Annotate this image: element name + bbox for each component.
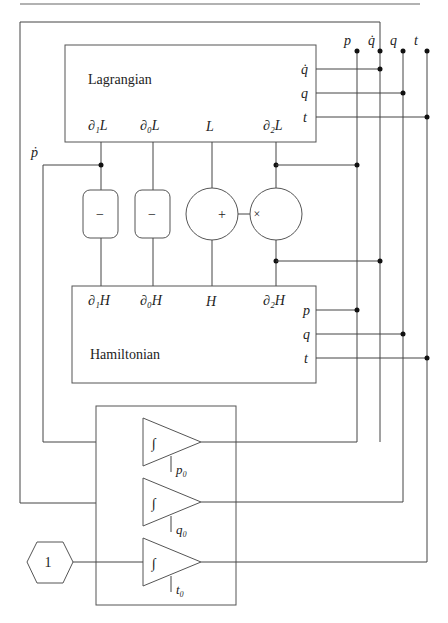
junction-dot: [401, 332, 406, 337]
hamiltonian-output-q: q: [303, 327, 310, 342]
lagrangian-output-d0L: ∂₀L: [140, 118, 160, 133]
hamiltonian-input-d0H: ∂₀H: [140, 293, 163, 308]
lagrangian-output-d2L: ∂₂L: [263, 118, 283, 133]
negate-symbol: −: [96, 207, 104, 222]
hamiltonian-output-p: p: [302, 303, 310, 318]
junction-dot: [355, 163, 360, 168]
junction-dot: [99, 163, 104, 168]
hamiltonian-input-d2H: ∂₂H: [263, 293, 286, 308]
lagrangian-output-d1L: ∂₁L: [88, 118, 108, 133]
hamiltonian-input-H: H: [205, 294, 217, 309]
bus-dot: [425, 49, 430, 54]
lagrangian-title: Lagrangian: [88, 72, 152, 87]
initial-p0: p₀: [175, 462, 187, 477]
bus-dot: [378, 49, 383, 54]
hamiltonian-lagrangian-diagram: Lagrangian q̇ q t ∂₁L ∂₀L L ∂₂L p q̇ q t…: [0, 0, 448, 623]
plus-symbol: +: [218, 207, 226, 222]
times-symbol: ×: [254, 207, 261, 221]
hamiltonian-title: Hamiltonian: [90, 347, 160, 362]
adder-block: [186, 188, 238, 240]
junction-dot: [378, 67, 383, 72]
lagrangian-output-L: L: [205, 119, 214, 134]
initial-t0: t₀: [176, 582, 184, 597]
junction-dot: [425, 356, 430, 361]
hamiltonian-input-d1H: ∂₁H: [88, 293, 111, 308]
constant-value: 1: [45, 555, 52, 570]
junction-dot: [355, 308, 360, 313]
bus-label-t: t: [414, 33, 419, 48]
bus-label-p: p: [343, 33, 351, 48]
pdot-label: ṗ: [30, 145, 38, 160]
junction-dot: [401, 91, 406, 96]
bus-dot: [355, 49, 360, 54]
bus-label-q: q: [390, 33, 397, 48]
lagrangian-input-qdot: q̇: [301, 62, 308, 77]
lagrangian-input-q: q: [301, 86, 308, 101]
negate-symbol: −: [148, 207, 156, 222]
junction-dot: [425, 115, 430, 120]
junction-dot: [378, 259, 383, 264]
bus-label-qdot: q̇: [368, 33, 375, 48]
initial-q0: q₀: [176, 522, 187, 537]
bus-dot: [401, 49, 406, 54]
